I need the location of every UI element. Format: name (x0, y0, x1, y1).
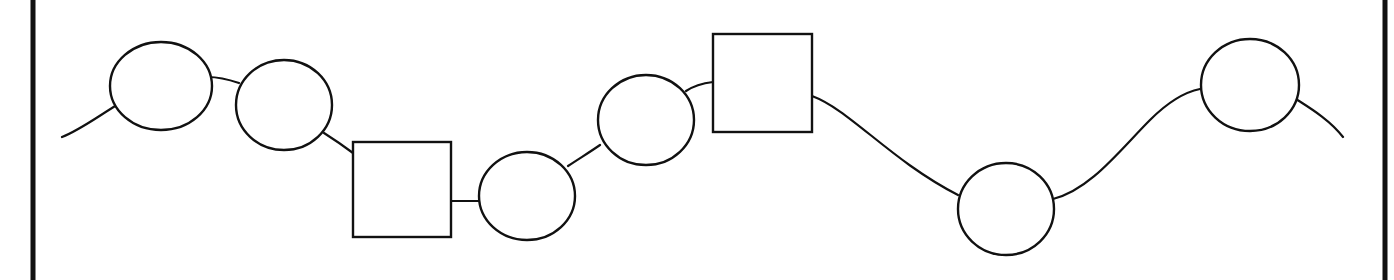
circle-node (958, 163, 1054, 255)
circle-node (1201, 39, 1299, 131)
diagram-canvas (0, 0, 1394, 280)
square-node (353, 142, 451, 237)
circle-node (479, 152, 575, 240)
nodes (110, 34, 1299, 255)
node-chain-diagram (0, 0, 1394, 280)
circle-node (598, 75, 694, 165)
circle-node (110, 42, 212, 130)
square-node (713, 34, 812, 132)
circle-node (236, 60, 332, 150)
